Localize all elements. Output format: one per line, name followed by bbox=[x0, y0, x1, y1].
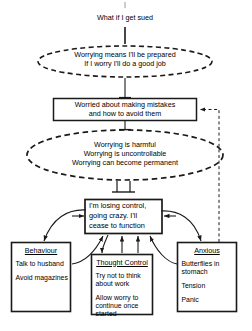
positive-belief-line-1: Worrying means I'll be prepared bbox=[40, 51, 210, 59]
anxious-item-3: Panic bbox=[182, 296, 236, 304]
negative-belief-line-2: Worrying is uncontrollable bbox=[35, 150, 215, 158]
anxious-panel-title: Anxious bbox=[178, 246, 237, 255]
central-thought-line-1: I'm losing control, bbox=[89, 202, 161, 210]
worry-box-line-1: Worried about making mistakes bbox=[54, 101, 196, 109]
anxious-item-1: Butterflies in stomach bbox=[182, 260, 236, 276]
feedback-loop-anxious-to-worry bbox=[200, 110, 219, 243]
central-thought-line-2: going crazy. I'll bbox=[89, 212, 161, 220]
behaviour-item-1: Talk to husband bbox=[16, 260, 70, 268]
central-thought-line-3: cease to function bbox=[89, 222, 161, 230]
thought-control-item-1: Try not to think about work bbox=[96, 272, 151, 288]
behaviour-panel-title: Behaviour bbox=[12, 246, 71, 255]
thought-control-item-2: Allow worry to continue once started bbox=[96, 294, 151, 318]
behaviour-panel-items: Talk to husband Avoid magazines bbox=[16, 260, 70, 288]
trigger-label: What if I get sued bbox=[55, 14, 195, 22]
arrow-central-to-thought-control bbox=[102, 235, 108, 253]
worry-formulation-diagram: What if I get sued Worrying means I'll b… bbox=[0, 0, 252, 331]
arrow-anxious-to-central bbox=[150, 236, 177, 264]
behaviour-item-2: Avoid magazines bbox=[16, 274, 70, 282]
behaviour-panel: Behaviour Talk to husband Avoid magazine… bbox=[12, 243, 71, 312]
arrow-central-to-anxious bbox=[161, 211, 201, 241]
thought-control-panel-items: Try not to think about work Allow worry … bbox=[96, 272, 151, 325]
worry-box-line-2: and how to avoid them bbox=[54, 110, 196, 118]
thought-control-panel-title: Thought Control bbox=[92, 258, 153, 267]
negative-belief-line-1: Worrying is harmful bbox=[35, 141, 215, 149]
thought-control-panel: Thought Control Try not to think about w… bbox=[92, 255, 153, 315]
positive-belief-line-2: If I worry I'll do a good job bbox=[40, 60, 210, 68]
arrow-central-to-behaviour bbox=[44, 210, 86, 241]
anxious-item-2: Tension bbox=[182, 282, 236, 290]
anxious-panel-items: Butterflies in stomach Tension Panic bbox=[182, 260, 236, 311]
anxious-panel: Anxious Butterflies in stomach Tension P… bbox=[178, 243, 237, 312]
negative-belief-line-3: Worrying can become permanent bbox=[35, 159, 215, 167]
